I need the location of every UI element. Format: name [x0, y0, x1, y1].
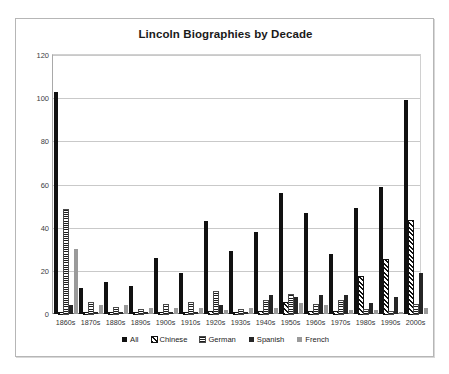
bar-spanish-1910s — [194, 312, 198, 314]
chart-title: Lincoln Biographies by Decade — [16, 28, 435, 40]
x-axis-tick-label: 1980s — [356, 318, 376, 327]
legend-swatch-icon — [200, 337, 205, 342]
x-axis-tick-label: 1970s — [331, 318, 351, 327]
bar-group: 1960s — [303, 55, 328, 314]
bar-german-1980s — [364, 310, 368, 314]
bar-chinese-1870s — [84, 313, 88, 314]
bar-german-1860s — [64, 210, 68, 314]
legend-item-all[interactable]: All — [122, 335, 138, 344]
bar-group: 2000s — [403, 55, 428, 314]
bar-group: 1920s — [203, 55, 228, 314]
bar-spanish-1870s — [94, 312, 98, 314]
bar-chinese-1900s — [159, 313, 163, 314]
bar-spanish-1930s — [244, 312, 248, 314]
bar-chinese-1940s — [259, 312, 263, 314]
bar-french-1990s — [399, 312, 403, 314]
legend-label: Spanish — [257, 335, 284, 344]
bar-spanish-1860s — [69, 305, 73, 314]
bar-chinese-1970s — [334, 312, 338, 314]
y-axis-tick-label: 60 — [41, 180, 49, 189]
legend-label: German — [208, 335, 235, 344]
legend-swatch-icon — [297, 337, 302, 342]
bar-chinese-1990s — [384, 260, 388, 314]
bar-all-1860s — [54, 92, 58, 314]
bar-french-1880s — [124, 305, 128, 314]
y-axis-tick-label: 0 — [45, 310, 49, 319]
bar-group: 1940s — [253, 55, 278, 314]
x-axis-tick-label: 1880s — [106, 318, 126, 327]
x-axis-tick-label: 1900s — [156, 318, 176, 327]
bar-group: 1950s — [278, 55, 303, 314]
x-axis-tick-label: 1940s — [256, 318, 276, 327]
x-axis-tick-label: 1920s — [206, 318, 226, 327]
bar-all-1940s — [254, 232, 258, 314]
x-axis-tick-label: 1990s — [381, 318, 401, 327]
bar-group: 1910s — [178, 55, 203, 314]
bar-french-1920s — [224, 310, 228, 314]
legend-item-german[interactable]: German — [200, 335, 235, 344]
bar-chinese-2000s — [409, 221, 413, 314]
x-axis-tick-label: 1910s — [181, 318, 201, 327]
bar-all-1870s — [79, 288, 83, 314]
bar-all-1900s — [154, 258, 158, 314]
bar-all-1880s — [104, 282, 108, 314]
chart-container: Lincoln Biographies by Decade 0204060801… — [15, 18, 434, 357]
y-axis-tick-label: 20 — [41, 266, 49, 275]
bar-chinese-1890s — [134, 313, 138, 314]
legend-label: French — [305, 335, 329, 344]
bar-all-1980s — [354, 208, 358, 314]
x-axis-tick-label: 1960s — [306, 318, 326, 327]
x-axis-tick-label: 1890s — [131, 318, 151, 327]
bar-german-1960s — [314, 305, 318, 314]
bar-group: 1980s — [353, 55, 378, 314]
bar-chinese-1930s — [234, 313, 238, 314]
bar-spanish-1980s — [369, 303, 373, 314]
bar-chinese-1880s — [109, 313, 113, 314]
bar-german-1940s — [264, 301, 268, 314]
bar-groups: 1860s1870s1880s1890s1900s1910s1920s1930s… — [53, 55, 420, 314]
bar-group: 1970s — [328, 55, 353, 314]
bar-all-1990s — [379, 187, 383, 314]
legend-item-spanish[interactable]: Spanish — [249, 335, 284, 344]
bar-all-1920s — [204, 221, 208, 314]
bar-german-1900s — [164, 305, 168, 314]
bar-chinese-1920s — [209, 312, 213, 314]
chart-legend: AllChineseGermanSpanishFrench — [16, 335, 435, 344]
bar-german-1930s — [239, 310, 243, 314]
bar-french-1870s — [99, 305, 103, 314]
x-axis-tick-label: 2000s — [406, 318, 426, 327]
bar-chinese-1960s — [309, 312, 313, 314]
bar-french-1900s — [174, 308, 178, 314]
bar-german-1990s — [389, 312, 393, 314]
bar-german-1890s — [139, 310, 143, 314]
legend-swatch-icon — [249, 337, 254, 342]
bar-all-1950s — [279, 193, 283, 314]
bar-group: 1870s — [78, 55, 103, 314]
bar-french-1970s — [349, 310, 353, 314]
bar-chinese-1860s — [59, 313, 63, 314]
legend-label: All — [130, 335, 138, 344]
x-axis-tick-label: 1930s — [231, 318, 251, 327]
x-axis-tick-label: 1860s — [56, 318, 76, 327]
legend-item-french[interactable]: French — [297, 335, 329, 344]
y-axis-tick-label: 40 — [41, 223, 49, 232]
bar-spanish-1960s — [319, 295, 323, 314]
bar-french-1980s — [374, 310, 378, 314]
bar-chinese-1950s — [284, 303, 288, 314]
y-axis-tick-label: 80 — [41, 137, 49, 146]
plot-area: 020406080100120 1860s1870s1880s1890s1900… — [52, 54, 421, 314]
bar-french-1950s — [299, 303, 303, 314]
legend-item-chinese[interactable]: Chinese — [152, 335, 188, 344]
bar-all-2000s — [404, 100, 408, 314]
bar-french-1860s — [74, 249, 78, 314]
bar-german-1870s — [89, 303, 93, 314]
bar-french-1940s — [274, 308, 278, 314]
bar-all-1970s — [329, 254, 333, 314]
bar-spanish-1970s — [344, 295, 348, 314]
bar-french-1890s — [149, 308, 153, 314]
bar-spanish-1900s — [169, 312, 173, 314]
bar-all-1890s — [129, 286, 133, 314]
bar-french-1930s — [249, 308, 253, 314]
bar-german-1910s — [189, 303, 193, 314]
bar-group: 1930s — [228, 55, 253, 314]
